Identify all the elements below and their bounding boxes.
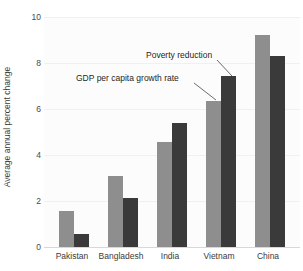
bar-chart: Average annual percent change [0, 0, 303, 271]
annotation-leader-lines [0, 0, 303, 271]
leader-line-poverty-reduction [217, 60, 232, 76]
leader-line-gdp-per-capita [194, 83, 216, 100]
